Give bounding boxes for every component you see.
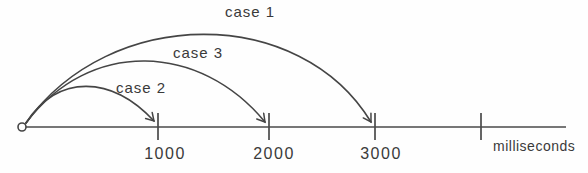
tick-label-3000: 3000 [360, 145, 402, 162]
origin-marker [18, 123, 26, 131]
tick-label-1000: 1000 [144, 145, 186, 162]
tick-label-2000: 2000 [253, 145, 295, 162]
timeline-svg: case 1 case 3 case 2 1000 2000 3000 mill… [0, 0, 588, 173]
arc-label-case-2: case 2 [116, 79, 166, 96]
arc-label-case-1: case 1 [225, 3, 275, 20]
arc-label-case-3: case 3 [173, 44, 223, 61]
axis-unit-label: milliseconds [493, 138, 575, 154]
timing-diagram-figure: case 1 case 3 case 2 1000 2000 3000 mill… [0, 0, 588, 173]
